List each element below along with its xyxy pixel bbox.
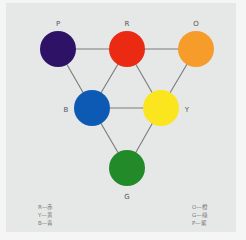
legend-item-o: O—橙 (192, 203, 208, 211)
legend-item-r: R—赤 (38, 203, 53, 211)
node-red (109, 31, 145, 67)
legend-left: R—赤 Y—黄 B—青 (38, 203, 53, 227)
label-y: Y (184, 106, 190, 114)
label-p: P (56, 20, 60, 28)
node-purple (40, 31, 76, 67)
node-blue (74, 90, 110, 126)
legend-item-p: P—紫 (192, 219, 208, 227)
legend-item-g: G—綠 (192, 211, 208, 219)
label-b: B (64, 106, 69, 114)
legend-item-b: B—青 (38, 219, 53, 227)
color-triangle-diagram: P R O B Y G (0, 0, 246, 240)
node-green (109, 150, 145, 186)
label-r: R (125, 20, 130, 28)
label-o: O (193, 20, 199, 28)
legend-item-y: Y—黄 (38, 211, 53, 219)
legend-right: O—橙 G—綠 P—紫 (192, 203, 208, 227)
node-yellow (143, 90, 179, 126)
label-g: G (124, 193, 129, 201)
node-orange (178, 31, 214, 67)
